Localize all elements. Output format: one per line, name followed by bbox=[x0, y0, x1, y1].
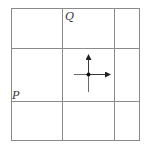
label-q: Q bbox=[65, 10, 74, 23]
point-dot-icon bbox=[87, 73, 91, 77]
grid-diagram: Q P bbox=[0, 0, 148, 150]
vector-point bbox=[74, 55, 110, 92]
label-p: P bbox=[11, 89, 20, 102]
